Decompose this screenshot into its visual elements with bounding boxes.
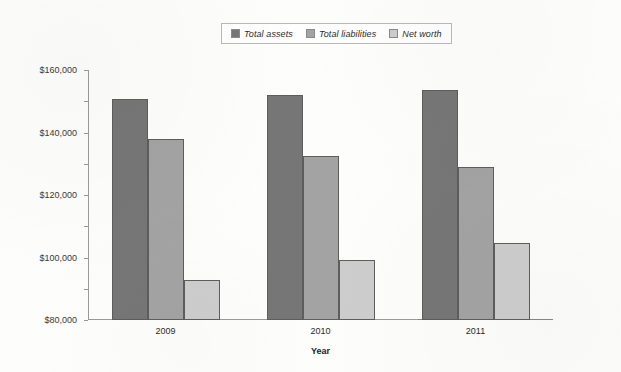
legend-label: Total liabilities xyxy=(319,29,376,39)
y-axis-tick-label: $100,000 xyxy=(39,253,77,263)
legend-swatch-icon xyxy=(306,29,315,38)
y-axis-tick: $160,000 xyxy=(84,70,88,71)
y-axis-tick: $120,000 xyxy=(84,133,88,134)
y-axis-tick: $140,000 xyxy=(84,101,88,102)
legend-item-net-worth[interactable]: Net worth xyxy=(389,29,441,39)
bar-total-liabilities-2011[interactable] xyxy=(458,167,494,320)
bar-total-assets-2010[interactable] xyxy=(267,95,303,320)
bar-chart: Total assetsTotal liabilitiesNet worth $… xyxy=(0,0,621,372)
bar-total-liabilities-2009[interactable] xyxy=(148,139,184,320)
y-axis-tick-label: $160,000 xyxy=(39,65,77,75)
bar-group-2009 xyxy=(112,70,220,320)
y-axis-tick: $100,000 xyxy=(84,164,88,165)
y-axis-tick: $0 xyxy=(84,320,88,321)
bar-total-liabilities-2010[interactable] xyxy=(303,156,339,320)
bar-group-2011 xyxy=(422,70,530,320)
x-axis-label-2011: 2011 xyxy=(422,326,530,336)
bar-group-2010 xyxy=(267,70,375,320)
y-axis-tick-label: $120,000 xyxy=(39,190,77,200)
x-axis-label-2009: 2009 xyxy=(112,326,220,336)
y-axis-tick-label: $80,000 xyxy=(44,315,77,325)
bar-total-assets-2011[interactable] xyxy=(422,90,458,320)
legend-swatch-icon xyxy=(231,29,240,38)
y-axis-tick-label: $140,000 xyxy=(39,128,77,138)
legend-label: Net worth xyxy=(402,29,441,39)
y-axis-tick: $80,000 xyxy=(84,195,88,196)
x-axis-title: Year xyxy=(88,346,553,356)
legend-item-total-liabilities[interactable]: Total liabilities xyxy=(306,29,376,39)
chart-legend: Total assetsTotal liabilitiesNet worth xyxy=(221,23,452,44)
y-axis-tick: $40,000 xyxy=(84,258,88,259)
y-axis-tick: $20,000 xyxy=(84,289,88,290)
bar-total-assets-2009[interactable] xyxy=(112,99,148,320)
y-axis-line xyxy=(88,70,89,320)
plot-area: $160,000$140,000$120,000$100,000$80,000$… xyxy=(88,70,553,320)
bar-net-worth-2009[interactable] xyxy=(184,280,220,320)
legend-item-total-assets[interactable]: Total assets xyxy=(231,29,293,39)
legend-swatch-icon xyxy=(389,29,398,38)
bar-net-worth-2011[interactable] xyxy=(494,243,530,320)
bar-net-worth-2010[interactable] xyxy=(339,260,375,320)
x-axis-label-2010: 2010 xyxy=(267,326,375,336)
y-axis-tick: $60,000 xyxy=(84,226,88,227)
legend-label: Total assets xyxy=(244,29,293,39)
